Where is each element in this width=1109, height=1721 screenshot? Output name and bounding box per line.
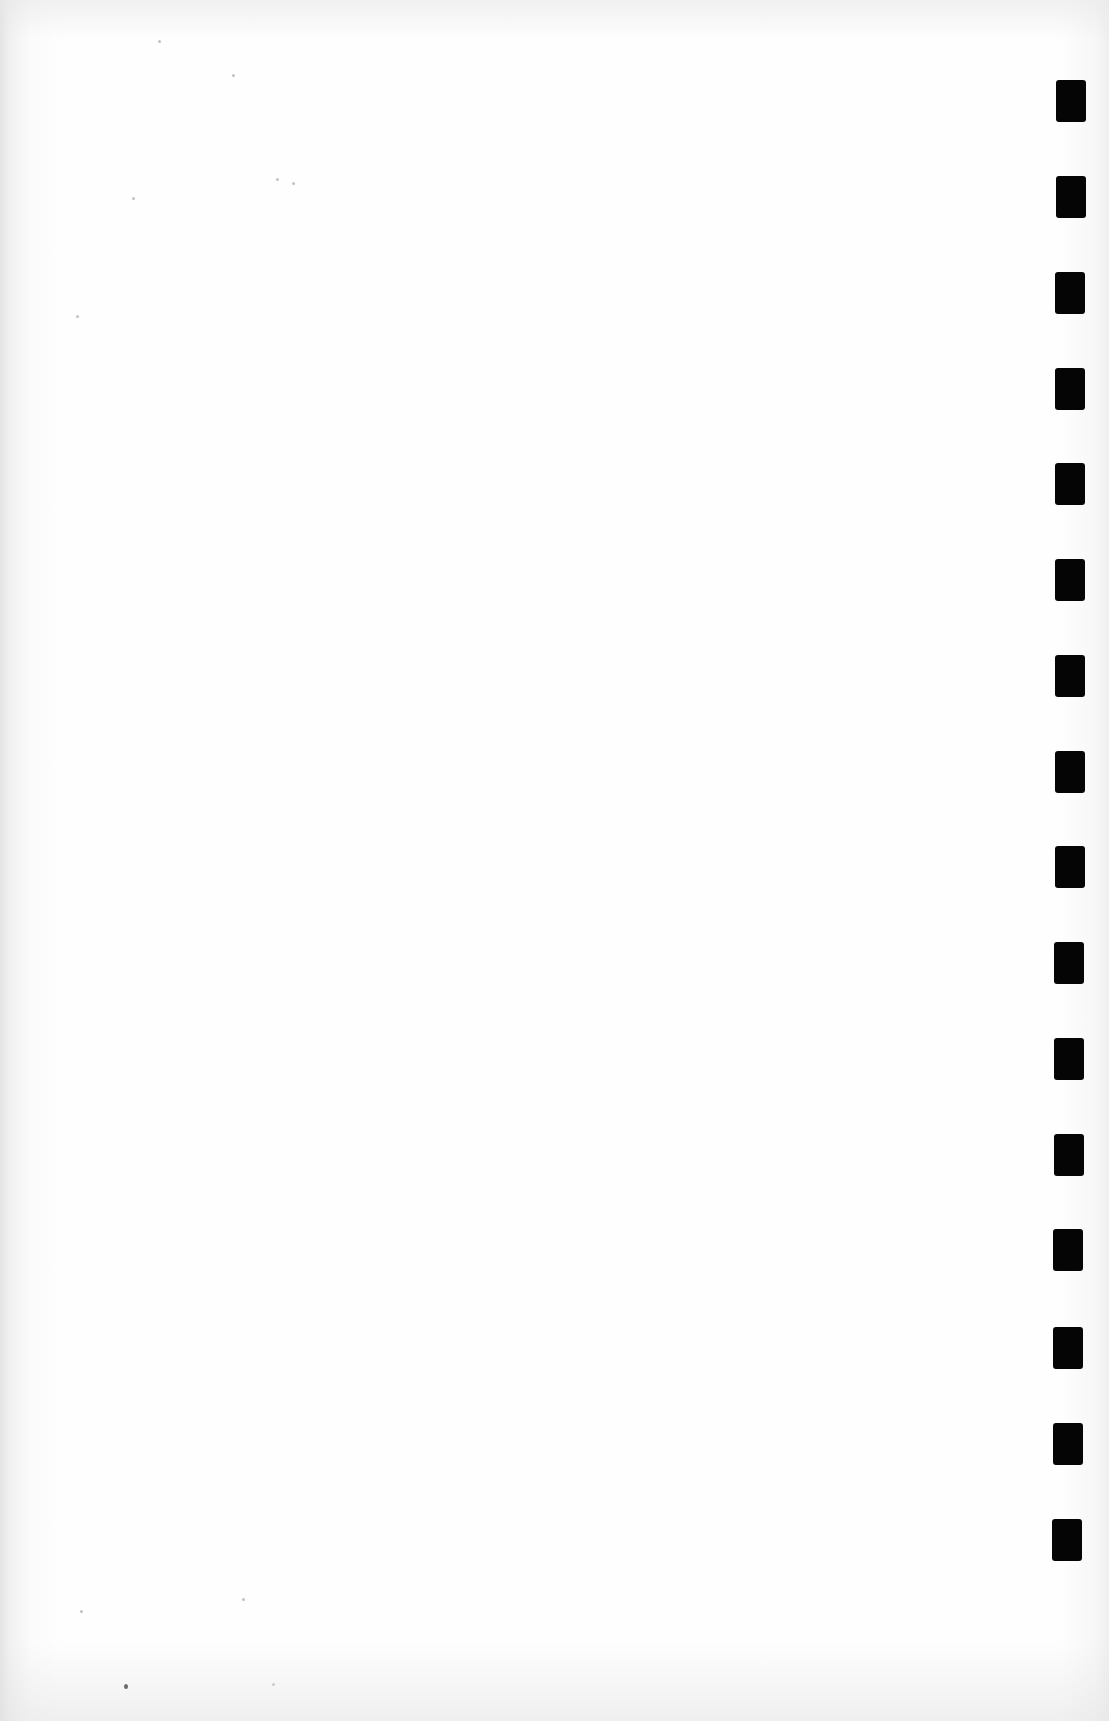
- binding-mark: [1056, 80, 1086, 122]
- scan-speck: [232, 74, 235, 77]
- binding-mark: [1054, 1038, 1084, 1080]
- scanned-page: [0, 0, 1109, 1721]
- binding-mark: [1055, 846, 1085, 888]
- binding-mark: [1053, 1423, 1083, 1465]
- binding-mark: [1055, 751, 1085, 793]
- binding-mark: [1054, 942, 1084, 984]
- scan-speck: [158, 40, 161, 43]
- scan-speck: [292, 182, 295, 185]
- binding-mark: [1056, 176, 1086, 218]
- binding-mark: [1053, 1327, 1083, 1369]
- scan-speck: [132, 197, 135, 200]
- scan-speck: [76, 315, 79, 318]
- binding-mark: [1054, 1134, 1084, 1176]
- scan-speck: [276, 178, 279, 181]
- binding-mark: [1053, 1229, 1083, 1271]
- binding-marks-column: [0, 0, 1109, 1721]
- binding-mark: [1055, 272, 1085, 314]
- scan-speck: [124, 1684, 128, 1689]
- scan-speck: [272, 1683, 275, 1686]
- scan-speck: [242, 1598, 245, 1601]
- binding-mark: [1055, 368, 1085, 410]
- scan-speck: [80, 1610, 83, 1613]
- binding-mark: [1055, 655, 1085, 697]
- binding-mark: [1055, 463, 1085, 505]
- binding-mark: [1052, 1519, 1082, 1561]
- binding-mark: [1055, 559, 1085, 601]
